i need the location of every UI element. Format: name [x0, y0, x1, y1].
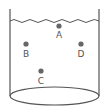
point-c-label: C: [38, 76, 44, 86]
point-b: B: [23, 41, 29, 59]
liquid-surface: [10, 20, 99, 23]
container-bottom: [10, 87, 99, 105]
point-a-label: A: [56, 30, 63, 40]
point-a-dot: [56, 23, 61, 28]
liquid-container-diagram: A B D C: [0, 0, 104, 109]
point-d: D: [78, 41, 85, 59]
point-b-label: B: [23, 49, 29, 59]
point-a: A: [56, 23, 63, 40]
point-d-dot: [78, 41, 83, 46]
point-c: C: [38, 68, 44, 86]
point-d-label: D: [78, 49, 85, 59]
point-c-dot: [38, 68, 43, 73]
point-b-dot: [23, 41, 28, 46]
